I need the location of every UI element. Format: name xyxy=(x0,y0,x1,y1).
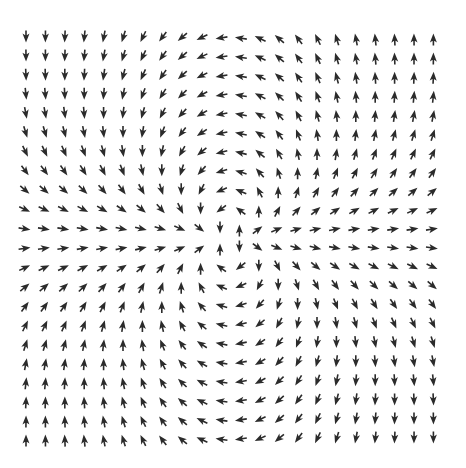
vector-field-plot xyxy=(0,0,466,468)
